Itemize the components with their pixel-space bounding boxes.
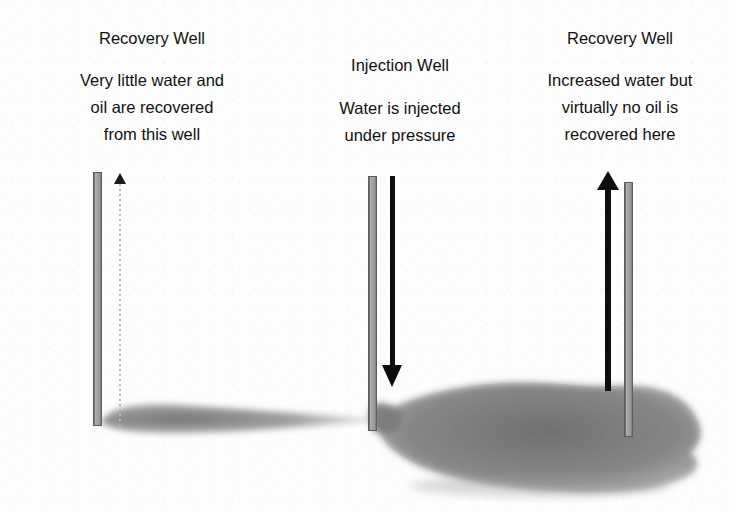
annotation-right-line-3: recovered here bbox=[512, 121, 728, 148]
flow-arrow-head-injection bbox=[382, 365, 402, 387]
waterflood-diagram: Recovery Well Very little water and oil … bbox=[0, 0, 735, 514]
annotation-right-line-2: virtually no oil is bbox=[512, 94, 728, 121]
flow-arrow-shaft-injection bbox=[390, 176, 395, 366]
annotation-center-body: Water is injected under pressure bbox=[300, 95, 500, 149]
flow-arrow-shaft-right-recovery bbox=[605, 189, 611, 391]
annotation-left-line-3: from this well bbox=[28, 121, 276, 148]
well-casing-injection bbox=[368, 176, 377, 431]
annotation-right-recovery-well: Recovery Well Increased water but virtua… bbox=[512, 26, 728, 148]
annotation-left-recovery-well: Recovery Well Very little water and oil … bbox=[28, 26, 276, 148]
annotation-center-line-2: under pressure bbox=[300, 122, 500, 149]
flow-arrow-shaft-left-recovery bbox=[119, 184, 121, 425]
annotation-right-title: Recovery Well bbox=[512, 26, 728, 50]
annotation-left-title: Recovery Well bbox=[28, 26, 276, 50]
annotation-center-line-1: Water is injected bbox=[300, 95, 500, 122]
flow-arrow-head-right-recovery bbox=[597, 171, 619, 190]
well-casing-left-recovery bbox=[93, 172, 102, 426]
annotation-center-title: Injection Well bbox=[300, 53, 500, 77]
annotation-injection-well: Injection Well Water is injected under p… bbox=[300, 53, 500, 149]
flow-arrow-head-left-recovery bbox=[114, 173, 126, 184]
annotation-left-body: Very little water and oil are recovered … bbox=[28, 67, 276, 148]
annotation-right-line-1: Increased water but bbox=[512, 67, 728, 94]
annotation-left-line-1: Very little water and bbox=[28, 67, 276, 94]
well-casing-right-recovery bbox=[624, 182, 633, 437]
annotation-right-body: Increased water but virtually no oil is … bbox=[512, 67, 728, 148]
annotation-left-line-2: oil are recovered bbox=[28, 94, 276, 121]
